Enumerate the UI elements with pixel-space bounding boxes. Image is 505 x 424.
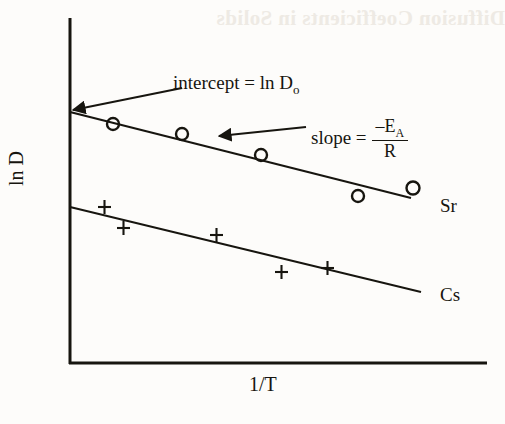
- sr-point: [176, 128, 188, 140]
- intercept-annotation-subscript: o: [293, 82, 300, 97]
- y-axis-label: ln D: [6, 151, 26, 186]
- intercept-annotation-text: intercept = ln D: [173, 72, 293, 93]
- slope-fraction: –EA R: [372, 117, 409, 161]
- slope-annotation-text: slope =: [311, 128, 367, 147]
- slope-arrow: [219, 127, 306, 136]
- sr-point: [407, 182, 420, 195]
- slope-numerator-text: –E: [376, 116, 396, 136]
- intercept-annotation: intercept = ln Do: [173, 73, 299, 96]
- figure-canvas: Diffusion Coefficients in Solids: [0, 0, 505, 424]
- cs-point: [321, 261, 334, 275]
- cs-fit-line: [70, 207, 421, 292]
- cs-data-points: [98, 200, 334, 279]
- axis-lines: [69, 18, 487, 364]
- series-label-cs: Cs: [440, 285, 460, 304]
- slope-fraction-numerator: –EA: [372, 117, 409, 141]
- slope-numerator-subscript: A: [396, 126, 405, 140]
- x-axis-label: 1/T: [249, 374, 277, 394]
- slope-fraction-denominator: R: [384, 141, 396, 161]
- plot-area: [0, 0, 505, 424]
- cs-point: [117, 221, 130, 235]
- cs-point: [98, 200, 111, 214]
- series-label-sr: Sr: [440, 196, 457, 215]
- sr-point: [352, 190, 364, 202]
- cs-point: [210, 228, 223, 242]
- cs-point: [275, 265, 288, 279]
- intercept-arrow: [73, 88, 182, 110]
- slope-annotation: slope = –EA R: [311, 116, 408, 160]
